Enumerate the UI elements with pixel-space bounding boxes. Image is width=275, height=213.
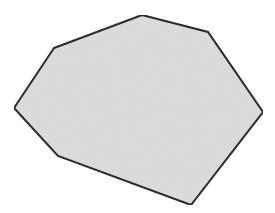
shape-svg (0, 0, 275, 213)
diagram-canvas (0, 0, 275, 213)
heptagon-shape (14, 15, 263, 205)
